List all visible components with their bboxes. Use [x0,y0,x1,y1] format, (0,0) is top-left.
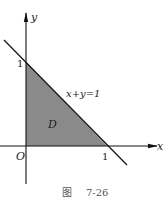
figure-7-26: y x O 1 1 D x+y=1 图 7-26 [0,0,165,204]
x-tick-label-1: 1 [102,151,108,162]
caption-prefix: 图 [62,187,72,198]
x-axis-label: x [157,140,164,153]
y-tick-label-1: 1 [17,58,23,69]
y-axis-label: y [30,11,38,24]
origin-label: O [16,150,25,163]
caption-number: 7-26 [86,187,108,198]
region-label: D [47,118,57,131]
line-equation-label: x+y=1 [66,88,100,99]
